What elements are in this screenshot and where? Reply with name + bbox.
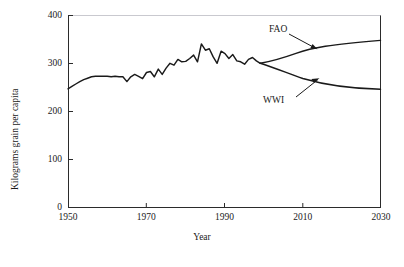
x-axis-title: Year — [0, 232, 404, 242]
y-tick-label-200: 200 — [32, 107, 62, 117]
plot-area — [68, 15, 381, 208]
chart-figure: 400 300 200 100 0 Kilograms grain per ca… — [0, 0, 404, 267]
series-label-fao: FAO — [269, 24, 287, 34]
y-axis-title: Kilograms grain per capita — [10, 176, 21, 190]
series-label-wwi: WWI — [263, 95, 284, 105]
x-tick-label-1970: 1970 — [122, 212, 170, 222]
y-tick-label-300: 300 — [32, 59, 62, 69]
x-tick-label-2030: 2030 — [357, 212, 404, 222]
y-axis-tick-labels: 400 300 200 100 0 — [28, 0, 62, 267]
x-tick-label-2010: 2010 — [279, 212, 327, 222]
y-tick-label-400: 400 — [32, 11, 62, 21]
y-tick-label-100: 100 — [32, 155, 62, 165]
x-tick-label-1990: 1990 — [201, 212, 249, 222]
x-tick-label-1950: 1950 — [44, 212, 92, 222]
